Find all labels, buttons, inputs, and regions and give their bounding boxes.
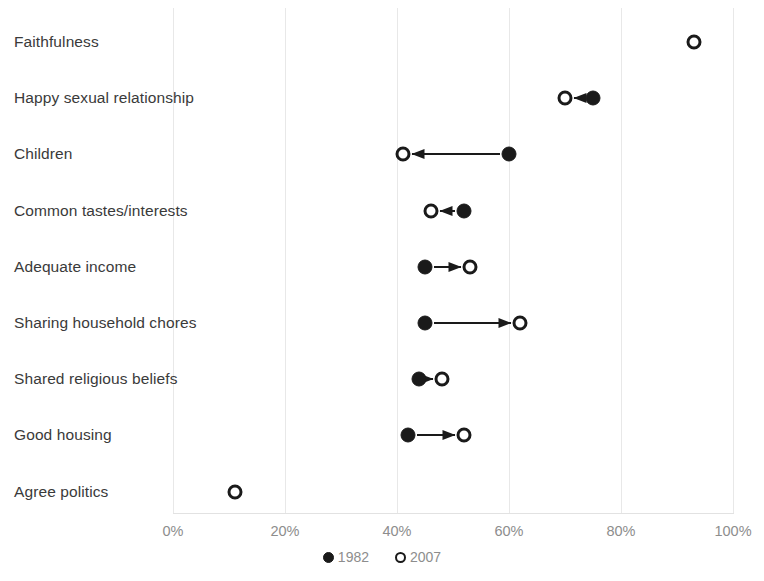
legend-item-1982[interactable]: 1982 <box>323 549 369 565</box>
data-point-1982[interactable] <box>418 259 433 274</box>
legend-label-2007: 2007 <box>410 549 441 565</box>
category-label: Children <box>14 145 73 163</box>
change-connector-line <box>412 153 500 155</box>
legend-item-2007[interactable]: 2007 <box>395 549 441 565</box>
x-tick-label: 20% <box>270 523 299 539</box>
data-point-2007[interactable] <box>434 372 449 387</box>
data-point-2007[interactable] <box>686 35 701 50</box>
arrowhead-right-icon <box>443 430 456 440</box>
category-label: Agree politics <box>14 483 108 501</box>
plot-area: 0%20%40%60%80%100%FaithfulnessHappy sexu… <box>0 0 764 581</box>
x-tick-label: 80% <box>606 523 635 539</box>
category-label: Sharing household chores <box>14 314 197 332</box>
data-point-1982[interactable] <box>412 372 427 387</box>
filled-circle-icon <box>323 552 334 563</box>
gridline <box>621 8 622 513</box>
data-point-2007[interactable] <box>423 203 438 218</box>
data-point-2007[interactable] <box>227 484 242 499</box>
dumbbell-chart: 0%20%40%60%80%100%FaithfulnessHappy sexu… <box>0 0 764 581</box>
x-tick-label: 40% <box>382 523 411 539</box>
gridline <box>397 8 398 513</box>
gridline <box>733 8 734 513</box>
gridline <box>285 8 286 513</box>
category-label: Common tastes/interests <box>14 202 188 220</box>
category-label: Happy sexual relationship <box>14 89 194 107</box>
x-tick-label: 0% <box>163 523 184 539</box>
category-label: Adequate income <box>14 258 136 276</box>
data-point-1982[interactable] <box>586 91 601 106</box>
data-point-2007[interactable] <box>558 91 573 106</box>
data-point-1982[interactable] <box>457 203 472 218</box>
data-point-1982[interactable] <box>502 147 517 162</box>
category-label: Good housing <box>14 426 112 444</box>
category-label: Faithfulness <box>14 33 99 51</box>
gridline <box>173 8 174 513</box>
arrowhead-right-icon <box>448 262 461 272</box>
data-point-2007[interactable] <box>513 316 528 331</box>
data-point-2007[interactable] <box>462 259 477 274</box>
category-label: Shared religious beliefs <box>14 370 178 388</box>
arrowhead-left-icon <box>439 206 452 216</box>
data-point-2007[interactable] <box>457 428 472 443</box>
arrowhead-right-icon <box>499 318 512 328</box>
x-axis-line <box>173 513 734 514</box>
open-circle-icon <box>395 552 406 563</box>
x-tick-label: 60% <box>494 523 523 539</box>
data-point-1982[interactable] <box>418 316 433 331</box>
x-tick-label: 100% <box>714 523 751 539</box>
data-point-2007[interactable] <box>395 147 410 162</box>
gridline <box>509 8 510 513</box>
chart-legend: 1982 2007 <box>0 549 764 565</box>
legend-label-1982: 1982 <box>338 549 369 565</box>
arrowhead-left-icon <box>411 149 424 159</box>
data-point-1982[interactable] <box>401 428 416 443</box>
